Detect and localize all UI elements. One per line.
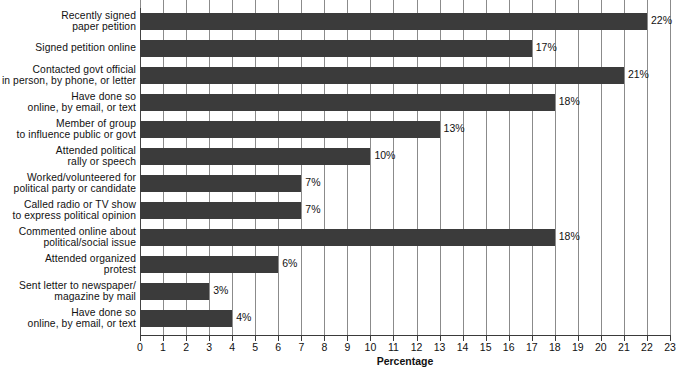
top-tick-18: [555, 0, 556, 8]
x-tick-label: 18: [543, 341, 567, 353]
bar-chart: Recently signedpaper petitionSigned peti…: [0, 0, 683, 372]
x-tick-label: 0: [128, 341, 152, 353]
top-tick-12: [417, 0, 418, 8]
bar: [140, 175, 301, 192]
top-tick-6: [278, 0, 279, 8]
category-label-line: Worked/volunteered for: [0, 172, 136, 184]
bar-row: 17%: [140, 35, 670, 62]
top-tick-3: [209, 0, 210, 8]
category-label-line: online, by email, or text: [0, 318, 136, 330]
x-tick-label: 21: [612, 341, 636, 353]
gridline-23: [670, 8, 671, 335]
top-tick-19: [578, 0, 579, 8]
top-tick-5: [255, 0, 256, 8]
bar: [140, 40, 532, 57]
top-tick-8: [324, 0, 325, 8]
category-label-line: political/social issue: [0, 237, 136, 249]
bar-value-label: 18%: [555, 228, 580, 245]
x-tick-label: 16: [497, 341, 521, 353]
x-tick-label: 22: [635, 341, 659, 353]
bar: [140, 13, 647, 30]
bar: [140, 256, 278, 273]
x-tick-label: 12: [405, 341, 429, 353]
category-label-line: Member of group: [0, 118, 136, 130]
top-tick-16: [509, 0, 510, 8]
bar: [140, 283, 209, 300]
x-tick-label: 2: [174, 341, 198, 353]
category-label-line: Have done so: [0, 307, 136, 319]
bar-value-label: 21%: [624, 66, 649, 83]
top-tick-7: [301, 0, 302, 8]
category-label-line: in person, by phone, or letter: [0, 75, 136, 87]
category-label: Contacted govt officialin person, by pho…: [0, 64, 136, 87]
category-label: Signed petition online: [0, 42, 136, 54]
top-tick-1: [163, 0, 164, 8]
bar: [140, 121, 440, 138]
category-label-line: Sent letter to newspaper/: [0, 280, 136, 292]
top-tick-14: [463, 0, 464, 8]
bar-row: 22%: [140, 8, 670, 35]
x-tick-label: 7: [289, 341, 313, 353]
top-tick-21: [624, 0, 625, 8]
category-label: Attended politicalrally or speech: [0, 145, 136, 168]
bar-row: 10%: [140, 143, 670, 170]
bar-value-label: 10%: [370, 147, 395, 164]
bar-row: 18%: [140, 89, 670, 116]
x-axis-line: [140, 335, 671, 336]
bar-row: 18%: [140, 224, 670, 251]
x-tick-label: 10: [358, 341, 382, 353]
category-label-line: paper petition: [0, 21, 136, 33]
bar-value-label: 3%: [209, 282, 228, 299]
category-label-line: online, by email, or text: [0, 102, 136, 114]
category-label-line: to express political opinion: [0, 210, 136, 222]
top-tick-13: [440, 0, 441, 8]
x-tick-label: 17: [520, 341, 544, 353]
category-label-line: Recently signed: [0, 10, 136, 22]
x-tick-label: 14: [451, 341, 475, 353]
category-label-line: Attended political: [0, 145, 136, 157]
category-label: Have done soonline, by email, or text: [0, 307, 136, 330]
top-tick-11: [393, 0, 394, 8]
x-tick-label: 1: [151, 341, 175, 353]
bar-value-label: 13%: [440, 120, 465, 137]
category-label-line: to influence public or govt: [0, 129, 136, 141]
x-tick-label: 8: [312, 341, 336, 353]
x-tick-label: 6: [266, 341, 290, 353]
x-tick-label: 9: [335, 341, 359, 353]
category-label-line: protest: [0, 264, 136, 276]
top-tick-10: [370, 0, 371, 8]
top-tick-20: [601, 0, 602, 8]
bar: [140, 94, 555, 111]
category-label-line: magazine by mail: [0, 291, 136, 303]
category-label: Called radio or TV showto express politi…: [0, 199, 136, 222]
x-tick-label: 4: [220, 341, 244, 353]
category-label-line: rally or speech: [0, 156, 136, 168]
category-label-line: Called radio or TV show: [0, 199, 136, 211]
category-label: Member of groupto influence public or go…: [0, 118, 136, 141]
bar-row: 3%: [140, 278, 670, 305]
top-tick-0: [140, 0, 141, 8]
x-tick-label: 20: [589, 341, 613, 353]
category-label-line: Have done so: [0, 91, 136, 103]
bar-row: 21%: [140, 62, 670, 89]
category-label: Attended organizedprotest: [0, 253, 136, 276]
bar-row: 6%: [140, 251, 670, 278]
bar-value-label: 18%: [555, 93, 580, 110]
bar-value-label: 17%: [532, 39, 557, 56]
bar-row: 13%: [140, 116, 670, 143]
bar-value-label: 22%: [647, 12, 672, 29]
category-label: Sent letter to newspaper/magazine by mai…: [0, 280, 136, 303]
top-tick-15: [486, 0, 487, 8]
x-axis-title-text: Percentage: [377, 355, 434, 367]
x-tick-label: 15: [474, 341, 498, 353]
top-tick-4: [232, 0, 233, 8]
category-label-line: Attended organized: [0, 253, 136, 265]
plot-area: 22%17%21%18%13%10%7%7%18%6%3%4%: [140, 8, 670, 335]
category-label: Recently signedpaper petition: [0, 10, 136, 33]
category-label: Worked/volunteered forpolitical party or…: [0, 172, 136, 195]
bar-row: 7%: [140, 170, 670, 197]
x-tick-label: 13: [428, 341, 452, 353]
top-tick-2: [186, 0, 187, 8]
bar-row: 4%: [140, 305, 670, 332]
bar: [140, 67, 624, 84]
